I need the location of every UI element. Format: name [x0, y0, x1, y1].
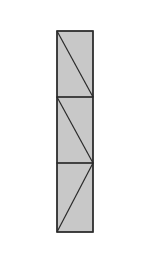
rectangle-fill	[57, 31, 93, 232]
stacked-triangles-diagram	[0, 0, 151, 258]
